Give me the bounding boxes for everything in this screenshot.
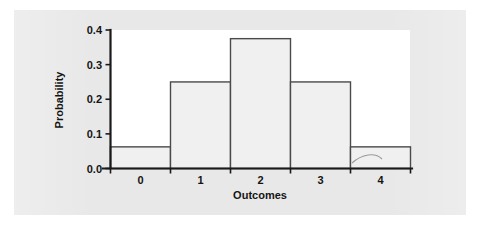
y-tick-label: 0.3 — [74, 59, 102, 71]
x-tick-label: 3 — [317, 174, 323, 186]
bar-2 — [231, 39, 291, 169]
y-tick-label: 0.2 — [74, 93, 102, 105]
y-axis-title: Probability — [53, 72, 65, 129]
x-tick-label: 2 — [257, 174, 263, 186]
figure-root: 0.00.10.20.30.4 01234 Probability Outcom… — [0, 0, 482, 231]
y-tick-label: 0.1 — [74, 128, 102, 140]
bar-0 — [111, 147, 171, 169]
y-tick-label: 0.0 — [74, 163, 102, 175]
x-tick-label: 1 — [197, 174, 203, 186]
y-tick-label: 0.4 — [74, 24, 102, 36]
bars-group — [111, 39, 411, 169]
bar-1 — [171, 82, 231, 169]
x-axis-title: Outcomes — [233, 189, 287, 201]
x-tick-label: 0 — [137, 174, 143, 186]
x-tick-label: 4 — [377, 174, 383, 186]
bar-3 — [291, 82, 351, 169]
